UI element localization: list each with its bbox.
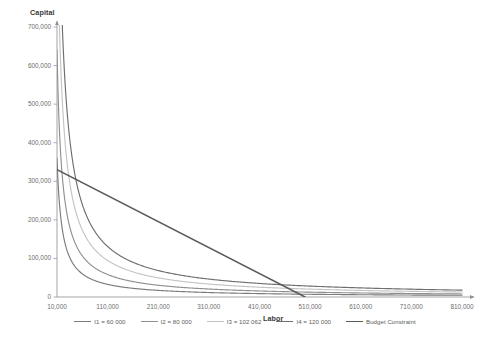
legend-swatch-icon [276,321,293,322]
isoquant-budget-chart: Capital Labor 0100,000200,000300,000400,… [0,0,490,338]
y-axis-title: Capital [30,8,55,17]
x-tick-label: 110,000 [81,303,135,310]
x-tick-label: 10,000 [30,303,84,310]
x-tick-label: 610,000 [334,303,388,310]
legend-item[interactable]: I1 = 60 000 [74,318,125,325]
y-tick-label: 600,000 [9,62,51,69]
y-tick-label: 500,000 [9,100,51,107]
legend-label: I1 = 60 000 [94,318,125,325]
legend-swatch-icon [207,321,224,322]
legend-label: Budget Constraint [366,318,416,325]
plot-area [0,0,490,338]
legend-label: I2 = 80 000 [161,318,192,325]
y-tick-label: 700,000 [9,23,51,30]
x-tick-label: 810,000 [435,303,489,310]
y-tick-label: 100,000 [9,254,51,261]
x-tick-label: 710,000 [384,303,438,310]
legend-item[interactable]: Budget Constraint [346,318,416,325]
y-tick-label: 300,000 [9,177,51,184]
y-tick-label: 200,000 [9,216,51,223]
legend-item[interactable]: I3 = 102 062 [207,318,262,325]
x-tick-label: 510,000 [283,303,337,310]
x-tick-label: 410,000 [233,303,287,310]
legend-swatch-icon [346,321,363,322]
y-tick-label: 0 [9,293,51,300]
legend-label: I3 = 102 062 [227,318,262,325]
chart-legend: I1 = 60 000I2 = 80 000I3 = 102 062I4 = 1… [0,318,490,325]
legend-item[interactable]: I2 = 80 000 [141,318,192,325]
y-tick-label: 400,000 [9,139,51,146]
legend-label: I4 = 120 000 [296,318,331,325]
legend-item[interactable]: I4 = 120 000 [276,318,331,325]
x-tick-label: 310,000 [182,303,236,310]
x-tick-label: 210,000 [131,303,185,310]
legend-swatch-icon [141,321,158,322]
legend-swatch-icon [74,321,91,322]
